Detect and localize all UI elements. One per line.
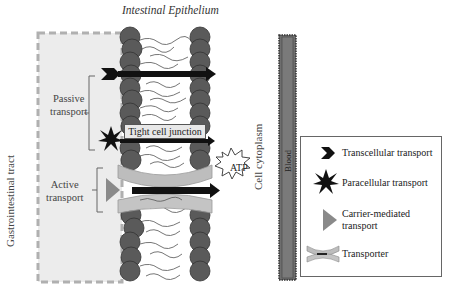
legend-item-paracellular: Paracellular transport [301,171,441,199]
passive-transport-label: Passive transport [50,92,87,118]
diagram-title: Intestinal Epithelium [122,4,219,16]
cell-cytoplasm-label: Cell cytoplasm [252,124,264,190]
legend: Transcellular transport Paracellular tra… [300,136,442,277]
atp-label: ATP [230,162,248,173]
tight-junction-label: Tight cell junction [124,124,206,139]
triangle-icon [321,207,341,233]
lipid-heads-left [120,27,144,281]
chevron-icon [319,145,339,161]
transporter-icon [305,242,341,266]
lipid-heads-right [190,27,210,281]
star-burst-icon [311,167,341,197]
legend-item-transporter: Transporter [301,244,441,272]
gi-tract-label: Gastrointestinal tract [4,155,16,247]
active-transport-label: Active transport [46,178,83,204]
legend-item-carrier: Carrier-mediated transport [301,207,441,235]
blood-label: Blood [283,150,293,172]
transport-diagram: Intestinal Epithelium Gastrointestinal t… [0,0,463,294]
